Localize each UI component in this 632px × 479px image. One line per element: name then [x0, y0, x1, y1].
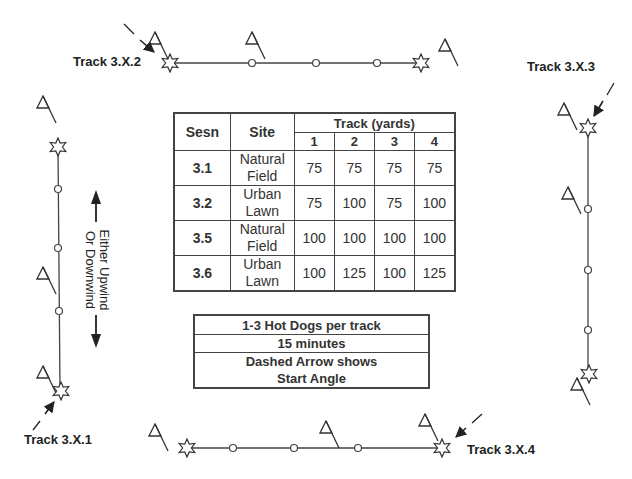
cell-track-1: 100 — [294, 221, 334, 256]
circle-icon — [313, 60, 320, 67]
track-label-3x3: Track 3.X.3 — [527, 59, 595, 74]
cell-track-2: 125 — [334, 256, 374, 292]
track-label-3x1: Track 3.X.1 — [24, 432, 92, 447]
flag-icon — [439, 39, 458, 66]
flag-icon — [320, 421, 339, 448]
flag-icon — [37, 267, 56, 294]
circle-icon — [56, 308, 63, 315]
cell-track-4: 75 — [414, 151, 455, 186]
flag-icon — [558, 103, 577, 130]
cell-track-3: 75 — [374, 186, 414, 221]
cell-track-1: 100 — [294, 256, 334, 292]
table-row: 3.1 NaturalField 75 75 75 75 — [174, 151, 455, 186]
table-row: 3.6 UrbanLawn 100 125 100 125 — [174, 256, 455, 292]
flag-icon — [37, 366, 56, 393]
wind-direction-label: Either Upwind Or Downwind — [83, 205, 111, 335]
cell-track-2: 100 — [334, 221, 374, 256]
cell-track-1: 75 — [294, 186, 334, 221]
dashed-arrow-icon — [124, 24, 154, 52]
cell-track-1: 75 — [294, 151, 334, 186]
header-track-3: 3 — [374, 133, 414, 151]
circle-icon — [55, 245, 62, 252]
cell-sesn: 3.1 — [174, 151, 230, 186]
site-line-1: Urban — [231, 186, 294, 203]
cell-track-2: 100 — [334, 186, 374, 221]
cell-track-4: 100 — [414, 186, 455, 221]
flag-icon — [37, 96, 56, 123]
site-line-2: Field — [231, 168, 294, 185]
wind-line-2: Or Downwind — [83, 205, 97, 335]
cell-sesn: 3.6 — [174, 256, 230, 292]
star-icon — [580, 119, 596, 137]
note-start-angle-line-2: Start Angle — [195, 370, 428, 387]
flag-icon — [419, 414, 438, 441]
cell-sesn: 3.5 — [174, 221, 230, 256]
table-row: 3.2 UrbanLawn 75 100 75 100 — [174, 186, 455, 221]
track-3x3 — [558, 83, 614, 405]
circle-icon — [230, 445, 237, 452]
notes-box: 1-3 Hot Dogs per track 15 minutes Dashed… — [193, 314, 430, 389]
header-track-4: 4 — [414, 133, 455, 151]
track-label-3x2: Track 3.X.2 — [73, 54, 141, 69]
cell-track-2: 75 — [334, 151, 374, 186]
note-hot-dogs: 1-3 Hot Dogs per track — [194, 315, 429, 335]
header-track-yards: Track (yards) — [294, 113, 455, 133]
site-line-2: Field — [231, 238, 294, 255]
cell-site: UrbanLawn — [230, 256, 294, 292]
cell-track-4: 100 — [414, 221, 455, 256]
circle-icon — [249, 60, 256, 67]
circle-icon — [585, 206, 592, 213]
dashed-arrow-icon — [33, 402, 54, 430]
header-sesn: Sesn — [174, 113, 230, 151]
circle-icon — [355, 445, 362, 452]
site-line-1: Natural — [231, 221, 294, 238]
schedule-table: Sesn Site Track (yards) 1 2 3 4 3.1 Natu… — [173, 112, 456, 292]
circle-icon — [585, 327, 592, 334]
flag-icon — [562, 187, 581, 214]
header-site: Site — [230, 113, 294, 151]
track-3x1 — [33, 96, 69, 430]
header-track-1: 1 — [294, 133, 334, 151]
header-track-2: 2 — [334, 133, 374, 151]
site-line-1: Urban — [231, 256, 294, 273]
cell-track-3: 75 — [374, 151, 414, 186]
track-label-3x4: Track 3.X.4 — [467, 442, 535, 457]
track-3x4 — [149, 414, 482, 457]
cell-site: NaturalField — [230, 151, 294, 186]
site-line-2: Lawn — [231, 203, 294, 220]
cell-sesn: 3.2 — [174, 186, 230, 221]
table-header-row: Sesn Site Track (yards) — [174, 113, 455, 133]
circle-icon — [291, 445, 298, 452]
site-line-2: Lawn — [231, 273, 294, 290]
flag-icon — [149, 32, 168, 59]
note-start-angle: Dashed Arrow showsStart Angle — [194, 353, 429, 389]
site-line-1: Natural — [231, 151, 294, 168]
note-duration: 15 minutes — [194, 335, 429, 353]
cell-track-3: 100 — [374, 221, 414, 256]
track-3x2 — [124, 24, 458, 72]
dashed-arrow-icon — [594, 83, 614, 116]
wind-line-1: Either Upwind — [97, 205, 111, 335]
note-start-angle-line-1: Dashed Arrow shows — [195, 353, 428, 370]
circle-icon — [585, 267, 592, 274]
cell-site: NaturalField — [230, 221, 294, 256]
flag-icon — [149, 424, 168, 451]
dashed-arrow-icon — [456, 414, 482, 437]
cell-track-4: 125 — [414, 256, 455, 292]
table-row: 3.5 NaturalField 100 100 100 100 — [174, 221, 455, 256]
flag-icon — [246, 32, 265, 59]
circle-icon — [374, 60, 381, 67]
cell-track-3: 100 — [374, 256, 414, 292]
circle-icon — [55, 186, 62, 193]
star-icon — [50, 138, 66, 156]
star-icon — [581, 365, 597, 383]
flag-icon — [571, 378, 590, 405]
cell-site: UrbanLawn — [230, 186, 294, 221]
